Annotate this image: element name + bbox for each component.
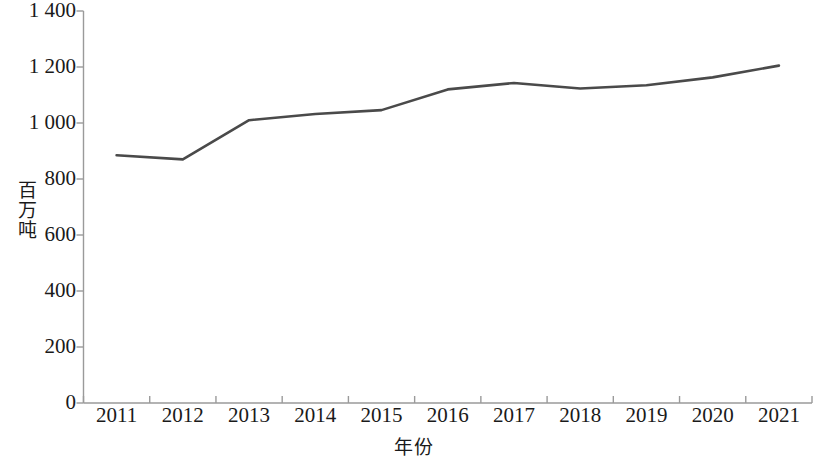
x-axis-tick-labels: 2011201220132014201520162017201820192020… [0,0,827,464]
x-tick-label: 2021 [739,404,819,426]
line-chart-figure: 百万吨 02004006008001 0001 2001 400 2011201… [0,0,827,464]
x-axis-title: 年份 [0,432,827,459]
